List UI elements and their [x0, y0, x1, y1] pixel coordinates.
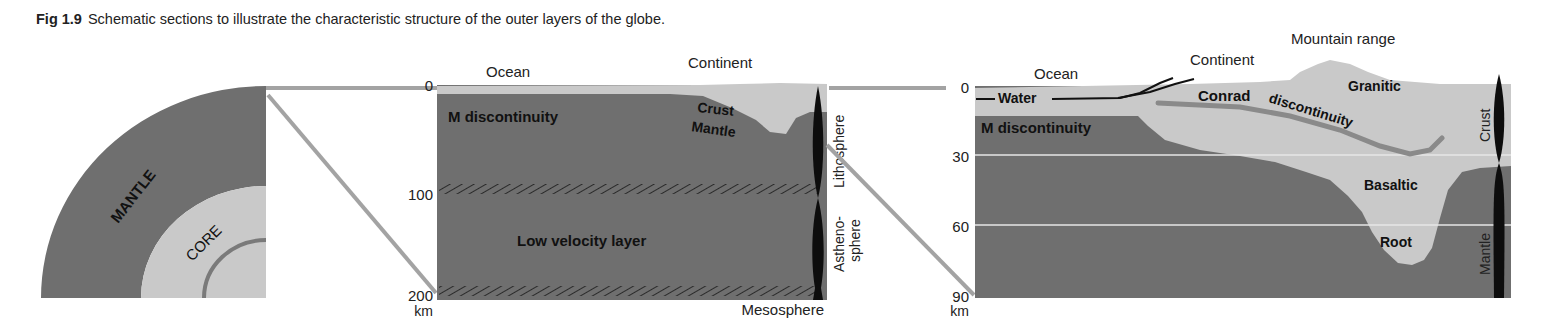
depth-tick-30: 30 [952, 148, 969, 165]
earth-structure-diagram: MANTLE CORE 0 100 200 km Ocean Continent… [0, 0, 1547, 331]
hatch-band-100 [439, 184, 819, 194]
m-discontinuity-label: M discontinuity [981, 119, 1092, 136]
globe-quadrant: MANTLE CORE [41, 86, 266, 298]
mantle-bar [1494, 163, 1505, 298]
section-200km: 0 100 200 km Ocean Continent M discontin… [408, 54, 863, 319]
mantle-side-label: Mantle [1477, 233, 1493, 275]
section-90km: 0 30 60 90 km Ocean Continent Mountain r… [950, 30, 1511, 319]
root-label: Root [1380, 234, 1412, 250]
ocean-label: Ocean [1034, 65, 1078, 82]
mountain-range-label: Mountain range [1291, 30, 1395, 47]
basaltic-label: Basaltic [1364, 177, 1418, 193]
hatch-band-200 [439, 286, 819, 296]
depth-unit: km [950, 303, 969, 319]
depth-unit: km [414, 303, 433, 319]
depth-tick-0: 0 [961, 79, 969, 96]
granitic-label: Granitic [1348, 78, 1401, 94]
asthenosphere-label-2: sphere [847, 219, 863, 262]
ocean-label: Ocean [486, 63, 530, 80]
connector-lines-2 [827, 88, 974, 295]
low-velocity-label: Low velocity layer [517, 232, 646, 249]
crust-side-label: Crust [1477, 108, 1493, 142]
continent-label: Continent [688, 54, 753, 71]
asthenosphere-label-1: Astheno- [831, 216, 847, 272]
m-discontinuity-label: M discontinuity [448, 108, 559, 125]
depth-tick-100: 100 [408, 186, 433, 203]
continent-label: Continent [1190, 51, 1255, 68]
depth-tick-0: 0 [425, 77, 433, 94]
water-label: Water [998, 90, 1037, 106]
conrad-label: Conrad [1198, 87, 1251, 104]
depth-tick-60: 60 [952, 218, 969, 235]
depth-tick-200: 200 [408, 287, 433, 304]
mesosphere-label: Mesosphere [741, 301, 824, 318]
